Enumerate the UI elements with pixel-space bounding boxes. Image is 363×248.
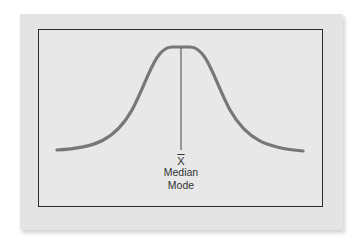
median-label: Median: [141, 166, 221, 178]
bell-curve-plot: [0, 0, 363, 248]
mode-label: Mode: [141, 179, 221, 191]
normal-curve: [57, 47, 303, 151]
